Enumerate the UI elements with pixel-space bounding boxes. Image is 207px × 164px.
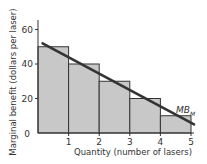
x-tick-label: 2 xyxy=(96,137,102,147)
marginal-benefit-chart: 204060 12345 MBM 0 Quantity (number of l… xyxy=(0,0,207,164)
x-tick-label: 1 xyxy=(66,137,72,147)
x-tick-label: 4 xyxy=(158,137,164,147)
x-ticks-group: 12345 xyxy=(66,133,194,147)
x-axis-label: Quantity (number of lasers) xyxy=(74,147,192,157)
bar-2 xyxy=(69,64,100,133)
x-tick-label: 5 xyxy=(188,137,194,147)
bar-5 xyxy=(160,116,191,133)
y-ticks-group: 204060 xyxy=(22,25,38,104)
bar-3 xyxy=(99,81,130,133)
bar-1 xyxy=(38,47,69,133)
y-axis-label: Marginal benefit (dollars per laser) xyxy=(8,8,18,155)
chart-canvas: 204060 12345 MBM 0 Quantity (number of l… xyxy=(0,0,207,164)
x-tick-label: 3 xyxy=(127,137,133,147)
y-tick-label: 20 xyxy=(22,94,34,104)
bars-group xyxy=(38,47,191,133)
origin-label: 0 xyxy=(24,129,30,139)
y-tick-label: 60 xyxy=(22,25,34,35)
y-tick-label: 40 xyxy=(22,59,34,69)
